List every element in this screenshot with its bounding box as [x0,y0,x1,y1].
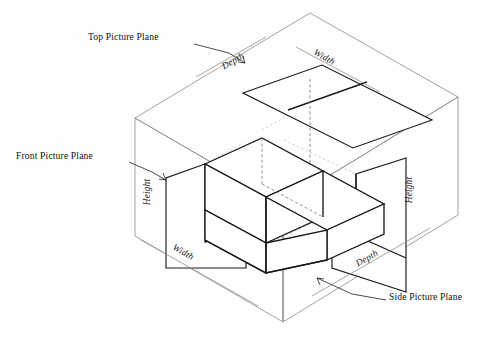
callout-front-picture-plane: Front Picture Plane [16,150,93,161]
callout-top-picture-plane: Top Picture Plane [88,31,159,42]
diagram-root: Top Picture Plane Front Picture Plane Si… [0,0,502,337]
dimension-height-front: Height [142,179,152,206]
dimension-height-side: Height [404,177,414,204]
diagram-canvas [0,0,502,337]
callout-side-picture-plane: Side Picture Plane [389,291,462,302]
